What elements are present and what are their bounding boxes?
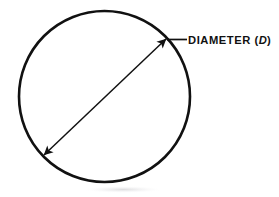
diameter-label-variable: D xyxy=(259,34,267,46)
diameter-arrow-line xyxy=(44,39,166,155)
diagram-canvas: DIAMETER (D) xyxy=(0,0,279,197)
diameter-diagram-svg: DIAMETER (D) xyxy=(0,0,279,197)
diameter-label: DIAMETER (D) xyxy=(188,34,271,46)
diameter-label-prefix: DIAMETER ( xyxy=(188,34,259,46)
scan-artifact xyxy=(83,186,163,193)
diameter-label-suffix: ) xyxy=(267,34,271,46)
